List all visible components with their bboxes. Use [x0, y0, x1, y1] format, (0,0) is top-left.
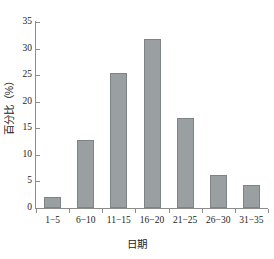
plot-area — [36, 22, 268, 208]
x-axis-tick — [202, 209, 203, 213]
bar — [44, 197, 61, 208]
x-axis-tick-label: 16−20 — [135, 216, 168, 226]
x-axis-tick-label: 21−25 — [169, 216, 202, 226]
x-axis-tick-label: 6−10 — [69, 216, 102, 226]
y-axis-tick-label: 35 — [16, 17, 32, 27]
bar — [77, 140, 94, 208]
bar — [177, 118, 194, 208]
x-axis-tick-label: 31−35 — [235, 216, 268, 226]
bar — [144, 39, 161, 208]
x-axis-title-label: 日期 — [127, 238, 147, 250]
x-axis-tick-label: 1−5 — [36, 216, 69, 226]
y-axis-tick-label: 20 — [16, 97, 32, 107]
x-axis-tick — [69, 209, 70, 213]
x-axis-tick-label: 11−15 — [102, 216, 135, 226]
y-axis-tick-label: 10 — [16, 150, 32, 160]
x-axis-tick — [169, 209, 170, 213]
bar — [243, 185, 260, 208]
x-axis-tick — [235, 209, 236, 213]
x-axis-tick — [102, 209, 103, 213]
y-axis-tick-label: 0 — [16, 203, 32, 213]
x-axis-title: 日期 — [0, 236, 274, 251]
x-axis-tick — [36, 209, 37, 213]
y-axis-tick-label: 15 — [16, 123, 32, 133]
y-axis-tick-label: 25 — [16, 70, 32, 80]
y-axis-tick-label: 30 — [16, 44, 32, 54]
bar — [210, 175, 227, 208]
bar — [110, 73, 127, 209]
x-axis-tick-label: 26−30 — [202, 216, 235, 226]
y-axis-tick-label: 5 — [16, 176, 32, 186]
x-axis-tick — [135, 209, 136, 213]
x-axis-tick — [268, 209, 269, 213]
bar-chart-figure: 百分比（%） 05101520253035 1−56−1011−1516−202… — [0, 0, 274, 259]
